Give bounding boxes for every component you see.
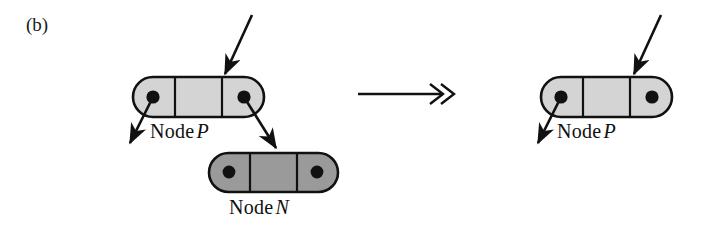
before-node-n-group [209, 153, 338, 192]
node-p-after-right-pointer-dot [645, 90, 658, 103]
linked-list-deletion-diagram [0, 0, 705, 232]
node-n-caption: NodeN [229, 196, 289, 219]
arrow-into-node-p-after [634, 15, 661, 74]
panel-label-b: (b) [26, 14, 48, 36]
transition-double-arrow [358, 84, 454, 104]
arrow-into-node-p-before [225, 15, 252, 74]
node-p-after-caption-variable: P [602, 120, 617, 142]
node-p-after-caption-word: Node [557, 120, 602, 142]
node-n-caption-variable: N [274, 196, 290, 218]
node-p-before-caption: NodeP [150, 120, 209, 143]
figure-canvas: (b) NodeP NodeN NodeP [0, 0, 705, 232]
node-p-after-caption: NodeP [557, 120, 616, 143]
node-p-before-caption-word: Node [150, 120, 195, 142]
node-n-left-pointer-dot [223, 166, 236, 179]
node-n-caption-word: Node [229, 196, 274, 218]
node-p-before-caption-variable: P [195, 120, 210, 142]
node-n-right-pointer-dot [311, 166, 324, 179]
